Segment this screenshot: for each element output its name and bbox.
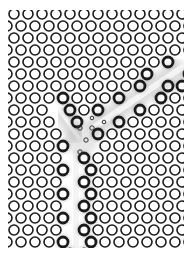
air-hole	[37, 57, 47, 67]
air-hole	[142, 45, 152, 55]
air-hole	[156, 141, 166, 151]
air-hole	[100, 213, 110, 223]
air-hole	[156, 213, 166, 223]
air-hole	[135, 201, 145, 211]
air-hole	[163, 105, 173, 115]
air-hole	[93, 249, 103, 259]
air-hole	[142, 165, 152, 175]
air-hole	[23, 249, 33, 259]
air-hole	[30, 117, 40, 127]
air-hole	[107, 9, 117, 19]
air-hole	[30, 93, 40, 103]
air-hole	[156, 93, 166, 103]
air-hole	[163, 153, 173, 163]
air-hole	[51, 249, 61, 259]
air-hole	[9, 153, 19, 163]
air-hole	[23, 225, 33, 235]
air-hole	[23, 129, 33, 139]
air-hole	[93, 81, 103, 91]
air-hole	[23, 105, 33, 115]
air-hole	[149, 105, 159, 115]
air-hole	[135, 153, 145, 163]
air-hole	[142, 69, 152, 79]
air-hole	[44, 237, 54, 247]
air-hole	[86, 69, 96, 79]
air-hole	[0, 225, 5, 235]
air-hole	[79, 105, 89, 115]
air-hole	[177, 249, 187, 259]
air-hole	[2, 189, 12, 199]
air-hole	[121, 177, 131, 187]
air-hole	[93, 153, 103, 163]
air-hole	[16, 45, 26, 55]
air-hole	[142, 117, 152, 127]
air-hole	[51, 177, 61, 187]
air-hole	[170, 21, 180, 31]
air-hole	[93, 177, 103, 187]
air-hole	[79, 33, 89, 43]
air-hole	[121, 9, 131, 19]
air-hole	[79, 249, 89, 259]
air-hole	[149, 33, 159, 43]
air-hole	[100, 21, 110, 31]
air-hole	[184, 237, 191, 247]
air-hole	[9, 81, 19, 91]
air-hole	[23, 177, 33, 187]
air-hole	[16, 93, 26, 103]
air-hole	[9, 105, 19, 115]
air-hole	[177, 105, 187, 115]
air-hole	[44, 93, 54, 103]
air-hole	[177, 129, 187, 139]
air-hole	[163, 9, 173, 19]
air-hole	[100, 45, 110, 55]
air-hole	[16, 21, 26, 31]
air-hole	[86, 189, 96, 199]
air-hole	[149, 249, 159, 259]
air-hole	[142, 21, 152, 31]
air-hole	[121, 57, 131, 67]
air-hole	[114, 189, 124, 199]
air-hole	[156, 189, 166, 199]
air-hole	[30, 165, 40, 175]
air-hole	[2, 21, 12, 31]
air-hole	[142, 141, 152, 151]
air-hole	[142, 237, 152, 247]
air-hole	[149, 201, 159, 211]
air-hole	[184, 189, 191, 199]
air-hole	[51, 129, 61, 139]
air-hole	[170, 237, 180, 247]
air-hole	[9, 201, 19, 211]
air-hole	[121, 249, 131, 259]
air-hole	[37, 9, 47, 19]
air-hole	[2, 165, 12, 175]
air-hole	[86, 21, 96, 31]
air-hole	[16, 237, 26, 247]
air-hole	[114, 165, 124, 175]
air-hole	[107, 177, 117, 187]
air-hole	[156, 45, 166, 55]
air-hole	[177, 153, 187, 163]
air-hole	[170, 213, 180, 223]
air-hole	[142, 213, 152, 223]
air-hole	[107, 129, 117, 139]
air-hole	[58, 69, 68, 79]
air-hole	[184, 69, 191, 79]
air-hole	[93, 201, 103, 211]
air-hole	[72, 45, 82, 55]
air-hole	[58, 93, 68, 103]
air-hole	[9, 177, 19, 187]
air-hole	[107, 57, 117, 67]
air-hole	[37, 81, 47, 91]
air-hole	[156, 21, 166, 31]
air-hole	[93, 9, 103, 19]
air-hole	[16, 189, 26, 199]
air-hole	[65, 9, 75, 19]
air-hole	[128, 69, 138, 79]
air-hole	[16, 141, 26, 151]
air-hole	[72, 69, 82, 79]
air-hole	[107, 81, 117, 91]
air-hole	[177, 225, 187, 235]
air-hole	[44, 213, 54, 223]
air-hole	[44, 69, 54, 79]
lattice-image	[0, 0, 191, 265]
